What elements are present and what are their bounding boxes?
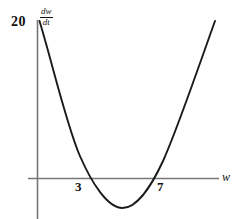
parabola-curve bbox=[40, 21, 216, 208]
plot-area bbox=[0, 0, 242, 219]
derivative-graph-figure: 20 3 7 w dw dt bbox=[0, 0, 242, 219]
x-tick-label-3: 3 bbox=[75, 180, 82, 193]
x-axis-title: w bbox=[222, 171, 230, 183]
y-intercept-label: 20 bbox=[11, 15, 26, 29]
fraction-denominator: dt bbox=[40, 18, 53, 27]
y-axis-title: dw dt bbox=[40, 7, 53, 28]
derivative-fraction: dw dt bbox=[40, 7, 53, 28]
x-tick-label-7: 7 bbox=[157, 180, 164, 193]
fraction-numerator: dw bbox=[40, 7, 53, 16]
